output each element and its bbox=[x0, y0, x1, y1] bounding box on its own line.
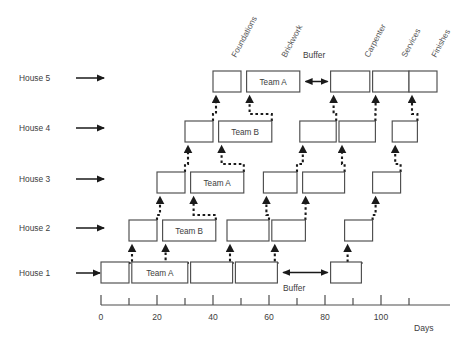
activity-bar[interactable] bbox=[157, 172, 185, 193]
row-label-house-2: House 2 bbox=[19, 223, 51, 233]
activity-bar[interactable] bbox=[272, 220, 306, 241]
buffer-label-house-5: Buffer bbox=[303, 50, 325, 60]
trade-labels-group: Foundations Brickwork Carpenter Services… bbox=[230, 15, 452, 59]
dependency-arrow bbox=[348, 251, 362, 263]
dependency-arrow bbox=[250, 102, 272, 121]
activity-bars-group: Team ATeam BTeam ATeam BTeam A bbox=[101, 71, 437, 283]
buffer-label-house-1: Buffer bbox=[283, 283, 305, 293]
dependency-arrow bbox=[129, 251, 132, 263]
axis-ticks-group: 020406080100 bbox=[99, 295, 409, 322]
activity-bar-label: Team A bbox=[146, 269, 174, 278]
row-label-house-4: House 4 bbox=[19, 123, 51, 133]
activity-bar[interactable] bbox=[331, 71, 370, 92]
activity-bar[interactable] bbox=[101, 262, 129, 283]
trade-label-finishes: Finishes bbox=[430, 28, 452, 59]
dependency-arrow bbox=[373, 203, 376, 220]
activity-bar-label: Team B bbox=[231, 128, 259, 137]
dependency-arrow bbox=[222, 152, 244, 172]
activity-bar[interactable] bbox=[392, 121, 417, 142]
activity-bar[interactable] bbox=[263, 172, 297, 193]
x-axis: 020406080100 Days bbox=[99, 295, 450, 333]
activity-bar[interactable] bbox=[331, 262, 362, 283]
dependency-arrow bbox=[166, 251, 188, 263]
activity-bar[interactable] bbox=[235, 262, 277, 283]
axis-tick-label: 0 bbox=[99, 312, 104, 322]
activity-bar-label: Team A bbox=[204, 179, 232, 188]
axis-tick-label: 60 bbox=[264, 312, 274, 322]
dependency-arrow bbox=[395, 152, 400, 172]
dependency-arrow bbox=[334, 102, 337, 121]
dependency-arrow bbox=[412, 102, 417, 121]
activity-bar[interactable] bbox=[303, 172, 345, 193]
activity-bar-label: Team B bbox=[175, 227, 203, 236]
activity-bar[interactable] bbox=[191, 262, 233, 283]
activity-bar[interactable] bbox=[129, 220, 157, 241]
diagram-canvas: Foundations Brickwork Carpenter Services… bbox=[0, 0, 467, 339]
dependency-arrow bbox=[266, 203, 269, 220]
dependency-arrow bbox=[275, 251, 278, 263]
dependency-arrow bbox=[297, 152, 303, 172]
activity-bar[interactable] bbox=[227, 220, 269, 241]
dependency-arrow bbox=[194, 203, 216, 220]
dependency-arrow bbox=[185, 152, 188, 172]
activity-bar[interactable] bbox=[409, 71, 437, 92]
axis-tick-label: 40 bbox=[208, 312, 218, 322]
activity-bar-label: Team A bbox=[260, 78, 288, 87]
row-label-house-1: House 1 bbox=[19, 268, 51, 278]
row-label-house-3: House 3 bbox=[19, 174, 51, 184]
dependency-arrow bbox=[230, 251, 233, 263]
activity-bar[interactable] bbox=[300, 121, 336, 142]
axis-label-days: Days bbox=[414, 323, 434, 333]
axis-tick-label: 100 bbox=[374, 312, 389, 322]
dependency-arrow bbox=[157, 203, 160, 220]
trade-label-carpenter: Carpenter bbox=[363, 22, 388, 59]
trade-label-services: Services bbox=[400, 27, 423, 59]
dependency-arrow bbox=[342, 152, 345, 172]
house-labels-group: House 5 House 4 House 3 House 2 House 1 bbox=[19, 73, 104, 278]
line-of-balance-diagram: Foundations Brickwork Carpenter Services… bbox=[0, 0, 467, 339]
axis-tick-label: 80 bbox=[320, 312, 330, 322]
activity-bar[interactable] bbox=[185, 121, 213, 142]
axis-tick-label: 20 bbox=[152, 312, 162, 322]
row-label-house-5: House 5 bbox=[19, 73, 51, 83]
trade-label-foundations: Foundations bbox=[230, 15, 259, 59]
activity-bar[interactable] bbox=[213, 71, 241, 92]
activity-bar[interactable] bbox=[339, 121, 375, 142]
trade-label-brickwork: Brickwork bbox=[280, 23, 305, 59]
activity-bar[interactable] bbox=[373, 71, 409, 92]
dependency-arrow bbox=[213, 102, 216, 121]
activity-bar[interactable] bbox=[345, 220, 373, 241]
activity-bar[interactable] bbox=[373, 172, 401, 193]
